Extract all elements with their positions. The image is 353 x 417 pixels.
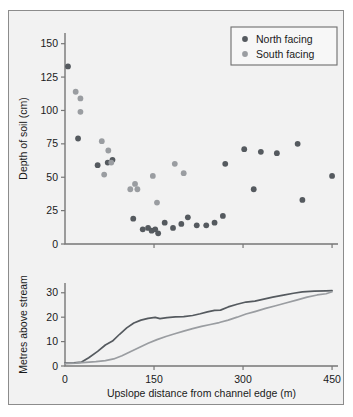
data-point-north [299, 197, 305, 203]
data-point-north [329, 173, 335, 179]
data-point-south [73, 89, 79, 95]
data-point-south [132, 181, 138, 187]
data-point-south [105, 148, 111, 154]
top-y-ticklabel: 150 [40, 37, 58, 49]
top-y-ticklabel: 25 [46, 204, 58, 216]
top-y-ticklabel: 100 [40, 104, 58, 116]
top-y-ticklabel: 75 [46, 137, 58, 149]
data-point-north [241, 146, 247, 152]
legend-label-2: South facing [256, 48, 315, 60]
legend-marker-2 [242, 51, 248, 57]
data-point-north [258, 149, 264, 155]
top-y-ticklabel: 50 [46, 171, 58, 183]
figure-panel: 0255075100125150Depth of soil (cm)North … [8, 10, 344, 405]
combined-chart-svg: 0255075100125150Depth of soil (cm)North … [9, 11, 345, 406]
bottom-y-ticklabel: 0 [52, 360, 58, 372]
legend-label-1: North facing [256, 33, 313, 45]
data-point-north [185, 214, 191, 220]
chart-canvas: 0255075100125150Depth of soil (cm)North … [9, 11, 343, 404]
data-point-south [99, 138, 105, 144]
data-point-north [194, 222, 200, 228]
data-point-north [65, 63, 71, 69]
bottom-chart-axes [65, 283, 338, 366]
bottom-y-ticklabel: 10 [46, 335, 58, 347]
data-point-north [222, 161, 228, 167]
bottom-y-ticklabel: 30 [46, 286, 58, 298]
data-point-north [140, 226, 146, 232]
data-point-north [95, 162, 101, 168]
bottom-y-axis-title: Metres above stream [17, 275, 29, 374]
data-point-north [274, 150, 280, 156]
data-point-south [150, 173, 156, 179]
data-point-south [181, 170, 187, 176]
data-point-north [295, 141, 301, 147]
data-point-north [251, 186, 257, 192]
data-point-north [155, 230, 161, 236]
bottom-x-ticklabel: 450 [323, 373, 341, 385]
data-point-south [78, 109, 84, 115]
data-point-north [162, 220, 168, 226]
bottom-y-ticklabel: 20 [46, 311, 58, 323]
data-point-north [170, 225, 176, 231]
data-point-north [212, 220, 218, 226]
data-point-south [127, 186, 133, 192]
data-point-south [108, 160, 114, 166]
bottom-x-axis-title: Upslope distance from channel edge (m) [107, 387, 296, 399]
data-point-south [101, 172, 107, 178]
data-point-south [78, 96, 84, 102]
data-point-north [130, 216, 136, 222]
top-y-ticklabel: 125 [40, 71, 58, 83]
top-y-axis-title: Depth of soil (cm) [17, 97, 29, 179]
bottom-x-ticklabel: 0 [62, 373, 68, 385]
data-point-south [135, 186, 141, 192]
profile-line-south [65, 292, 332, 364]
top-y-ticklabel: 0 [52, 238, 58, 250]
data-point-south [172, 161, 178, 167]
legend-marker-1 [242, 36, 248, 42]
data-point-south [154, 200, 160, 206]
bottom-x-ticklabel: 150 [145, 373, 163, 385]
data-point-north [203, 222, 209, 228]
data-point-north [75, 136, 81, 142]
bottom-x-ticklabel: 300 [234, 373, 252, 385]
data-point-north [220, 213, 226, 219]
data-point-north [178, 221, 184, 227]
